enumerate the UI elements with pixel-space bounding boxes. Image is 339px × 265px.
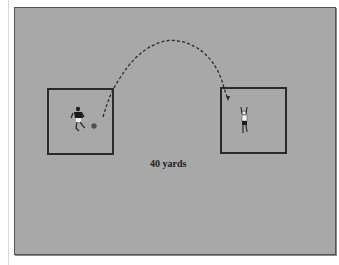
receiver-player-icon	[241, 107, 247, 133]
arrowhead-icon	[226, 96, 230, 101]
soccer-ball-icon	[92, 124, 97, 129]
lofted-pass-arc	[103, 40, 230, 117]
kicker-player-icon	[71, 107, 85, 131]
diagram-overlay	[0, 0, 339, 265]
distance-label: 40 yards	[150, 158, 186, 169]
